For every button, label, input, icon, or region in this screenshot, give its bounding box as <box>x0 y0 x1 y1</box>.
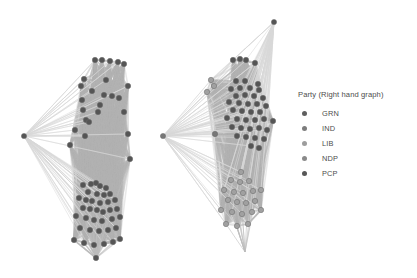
graph-node[interactable] <box>236 100 241 105</box>
graph-node[interactable] <box>101 241 106 246</box>
graph-node[interactable] <box>73 213 78 218</box>
graph-node[interactable] <box>110 239 115 244</box>
graph-node[interactable] <box>239 211 244 216</box>
graph-node[interactable] <box>100 209 105 214</box>
graph-node[interactable] <box>99 218 104 223</box>
graph-node[interactable] <box>234 116 239 121</box>
graph-node[interactable] <box>242 78 247 83</box>
graph-node[interactable] <box>231 189 236 194</box>
graph-node[interactable] <box>72 127 77 132</box>
graph-node[interactable] <box>105 199 110 204</box>
legend-item-grn[interactable]: GRN <box>296 106 417 121</box>
graph-node[interactable] <box>93 255 98 260</box>
graph-node[interactable] <box>21 133 26 138</box>
graph-node[interactable] <box>256 125 261 130</box>
graph-node[interactable] <box>121 109 126 114</box>
graph-node[interactable] <box>255 81 260 86</box>
graph-node[interactable] <box>230 57 235 62</box>
graph-node[interactable] <box>224 115 229 120</box>
graph-node[interactable] <box>86 119 91 124</box>
graph-node[interactable] <box>256 87 261 92</box>
graph-node[interactable] <box>239 108 244 113</box>
graph-node[interactable] <box>107 207 112 212</box>
graph-node[interactable] <box>204 89 209 94</box>
graph-node[interactable] <box>249 209 254 214</box>
graph-node[interactable] <box>252 198 257 203</box>
legend-item-ndp[interactable]: NDP <box>296 151 417 166</box>
graph-node[interactable] <box>80 107 85 112</box>
graph-node[interactable] <box>256 145 261 150</box>
graph-node[interactable] <box>223 221 228 226</box>
graph-node[interactable] <box>228 86 233 91</box>
graph-node[interactable] <box>114 206 119 211</box>
legend-item-pcp[interactable]: PCP <box>296 166 417 181</box>
graph-node[interactable] <box>87 227 92 232</box>
graph-node[interactable] <box>80 205 85 210</box>
graph-node[interactable] <box>71 237 76 242</box>
graph-node[interactable] <box>160 133 165 138</box>
graph-node[interactable] <box>125 131 130 136</box>
graph-node[interactable] <box>109 216 114 221</box>
graph-node[interactable] <box>92 57 97 62</box>
graph-node[interactable] <box>234 133 239 138</box>
graph-node[interactable] <box>221 187 226 192</box>
graph-node[interactable] <box>103 185 108 190</box>
graph-node[interactable] <box>91 242 96 247</box>
graph-node[interactable] <box>208 77 213 82</box>
graph-node[interactable] <box>263 103 268 108</box>
graph-node[interactable] <box>234 223 239 228</box>
graph-node[interactable] <box>261 136 266 141</box>
graph-node[interactable] <box>82 133 87 138</box>
graph-node[interactable] <box>245 221 250 226</box>
graph-node[interactable] <box>245 101 250 106</box>
graph-node[interactable] <box>252 117 257 122</box>
graph-node[interactable] <box>229 124 234 129</box>
graph-node[interactable] <box>238 169 243 174</box>
graph-node[interactable] <box>234 199 239 204</box>
graph-node[interactable] <box>83 197 88 202</box>
graph-node[interactable] <box>101 92 106 97</box>
graph-node[interactable] <box>103 77 108 82</box>
graph-node[interactable] <box>233 78 238 83</box>
graph-node[interactable] <box>78 83 83 88</box>
graph-node[interactable] <box>243 57 248 62</box>
graph-node[interactable] <box>243 117 248 122</box>
graph-node[interactable] <box>101 192 106 197</box>
graph-node[interactable] <box>99 57 104 62</box>
graph-node[interactable] <box>127 156 132 161</box>
legend-item-ind[interactable]: IND <box>296 121 417 136</box>
graph-node[interactable] <box>97 200 102 205</box>
graph-node[interactable] <box>258 187 263 192</box>
graph-node[interactable] <box>242 92 247 97</box>
graph-node[interactable] <box>248 143 253 148</box>
graph-node[interactable] <box>85 189 90 194</box>
graph-node[interactable] <box>261 116 266 121</box>
graph-node[interactable] <box>112 197 117 202</box>
graph-node[interactable] <box>247 85 252 90</box>
graph-node[interactable] <box>237 85 242 90</box>
graph-node[interactable] <box>67 142 72 147</box>
graph-node[interactable] <box>248 109 253 114</box>
graph-node[interactable] <box>116 95 121 100</box>
graph-node[interactable] <box>77 225 82 230</box>
graph-node[interactable] <box>251 93 256 98</box>
graph-node[interactable] <box>113 225 118 230</box>
graph-node[interactable] <box>254 101 259 106</box>
graph-node[interactable] <box>91 217 96 222</box>
graph-node[interactable] <box>117 214 122 219</box>
graph-node[interactable] <box>271 19 276 24</box>
graph-node[interactable] <box>233 93 238 98</box>
graph-node[interactable] <box>89 88 94 93</box>
graph-node[interactable] <box>94 207 99 212</box>
graph-node[interactable] <box>115 59 120 64</box>
graph-node[interactable] <box>109 93 114 98</box>
graph-node[interactable] <box>83 215 88 220</box>
graph-node[interactable] <box>229 209 234 214</box>
graph-node[interactable] <box>246 178 251 183</box>
graph-node[interactable] <box>237 56 242 61</box>
graph-node[interactable] <box>81 240 86 245</box>
graph-node[interactable] <box>247 126 252 131</box>
graph-node[interactable] <box>230 107 235 112</box>
graph-node[interactable] <box>252 60 257 65</box>
graph-node[interactable] <box>107 191 112 196</box>
